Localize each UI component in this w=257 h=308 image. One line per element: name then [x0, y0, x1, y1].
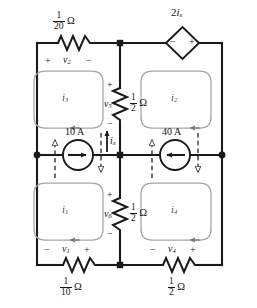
- resistor-r6-polarity-bottom: −: [107, 229, 113, 239]
- current-source-10a-label: 10 A: [65, 127, 84, 137]
- resistor-r6-voltage-label: v6: [104, 209, 112, 220]
- resistor-r4-polarity-left: −: [150, 245, 156, 255]
- current-ix-label: ix: [110, 136, 116, 147]
- mesh-label-i1: i1: [62, 205, 68, 216]
- resistor-r5-polarity-bottom: −: [107, 119, 113, 129]
- resistor-r6-polarity-top: +: [107, 190, 113, 200]
- resistor-r4-polarity-right: +: [190, 245, 196, 255]
- mesh-label-i4: i4: [171, 205, 177, 216]
- resistor-r2-symbol: [58, 36, 93, 50]
- node-dot-left: [34, 152, 41, 159]
- resistor-r5-fraction: 12: [130, 93, 137, 113]
- resistor-r1-polarity-right: +: [84, 245, 90, 255]
- dependent-source-label: 2ix: [171, 7, 182, 19]
- resistor-r4-voltage-label: v4: [168, 244, 176, 255]
- mesh-loop-i1-path: [34, 183, 103, 240]
- resistor-r1-voltage-label: v1: [62, 244, 70, 255]
- resistor-r5-polarity-top: +: [107, 80, 113, 90]
- resistor-r5-voltage-label: v5: [104, 99, 112, 110]
- resistor-r1-polarity-left: −: [44, 245, 50, 255]
- resistor-r4-fraction: 12: [168, 277, 175, 297]
- circuit-svg: [0, 0, 257, 308]
- node-dot-center: [117, 152, 123, 158]
- resistor-r4-value: 12 Ω: [168, 277, 185, 297]
- resistor-r6-symbol: [113, 198, 127, 234]
- current-source-10a-symbol: [63, 140, 93, 170]
- resistor-r5-value: 12 Ω: [130, 93, 147, 113]
- resistor-r6-fraction: 12: [130, 203, 137, 223]
- dependent-source-terminal-right: +: [189, 37, 195, 47]
- current-source-40a-symbol: [160, 140, 190, 170]
- resistor-r4-symbol: [163, 258, 198, 272]
- ohm-unit: Ω: [74, 281, 82, 292]
- dependent-source-terminal-left: −: [170, 37, 176, 47]
- resistor-r1-fraction: 110: [60, 277, 72, 297]
- resistor-r5-symbol: [113, 88, 127, 124]
- ohm-unit: Ω: [67, 15, 75, 26]
- node-dot-bottom: [117, 262, 123, 268]
- resistor-r1-value: 110 Ω: [60, 277, 82, 297]
- circuit-diagram: 120 Ω + v2 − 2ix − + i3 i2 i1 i4 + v5 − …: [0, 0, 257, 308]
- resistor-r2-value: 120 Ω: [53, 11, 75, 31]
- resistor-r6-value: 12 Ω: [130, 203, 147, 223]
- ohm-unit: Ω: [139, 97, 147, 108]
- resistor-r2-fraction: 120: [53, 11, 65, 31]
- ohm-unit: Ω: [139, 207, 147, 218]
- resistor-r2-polarity-right: −: [86, 56, 92, 66]
- mesh-label-i3: i3: [62, 93, 68, 104]
- resistor-r1-symbol: [63, 258, 98, 272]
- current-source-40a-label: 40 A: [162, 127, 181, 137]
- resistor-r2-polarity-left: +: [45, 56, 51, 66]
- resistor-r2-voltage-label: v2: [63, 55, 71, 66]
- node-dot-right: [219, 152, 226, 159]
- ohm-unit: Ω: [177, 281, 185, 292]
- mesh-label-i2: i2: [171, 93, 177, 104]
- node-dot-top: [117, 40, 123, 46]
- mesh-loop-i3-path: [34, 71, 103, 128]
